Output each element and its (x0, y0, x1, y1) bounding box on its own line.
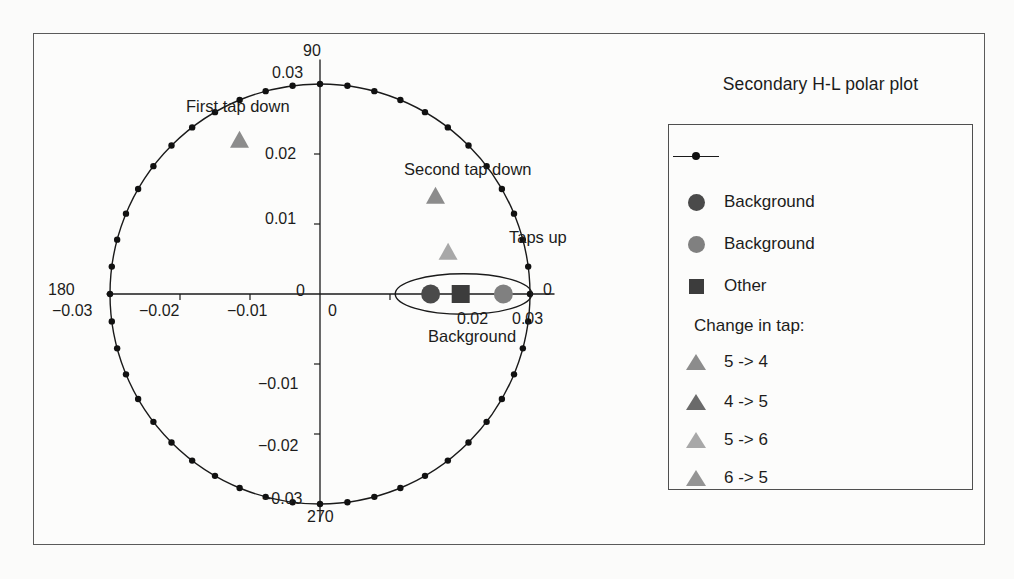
x-tick-label--0.02: −0.02 (139, 302, 179, 320)
y-tick-label--0.02: −0.02 (258, 437, 298, 455)
angle-label-180: 180 (48, 281, 75, 299)
circle-dot-marker (499, 396, 505, 402)
data-point-triangle-0 (230, 131, 249, 148)
legend-entry-label: Other (724, 276, 767, 296)
legend-tap-entry-label: 6 -> 5 (724, 468, 768, 488)
triangle-icon (668, 462, 724, 494)
legend-group-heading: Change in tap: (668, 316, 805, 336)
circle-dot-marker (262, 88, 268, 94)
circle-dot-marker (168, 142, 174, 148)
legend-entry-0[interactable] (668, 140, 973, 172)
triangle-icon (668, 424, 724, 456)
circle-dot-marker (109, 318, 115, 324)
figure-root: −0.03 −0.02 −0.01 0 0.02 0.03 0.02 0.01 … (0, 0, 1014, 579)
circle-icon (668, 228, 724, 260)
annotation-second-tap-down: Second tap down (404, 160, 532, 179)
circle-dot-marker (445, 457, 451, 463)
legend-tap-entry-0[interactable]: 5 -> 4 (668, 346, 973, 378)
legend-entry-2[interactable]: Background (668, 228, 973, 260)
angle-label-270: 270 (307, 508, 334, 526)
circle-dot-marker (135, 186, 141, 192)
triangle-swatch (686, 470, 706, 486)
circle-dot-marker (150, 419, 156, 425)
circle-dot-marker (397, 97, 403, 103)
legend-tap-entry-label: 5 -> 4 (724, 352, 768, 372)
circle-dot-marker (168, 439, 174, 445)
angle-label-0: 0 (543, 281, 552, 299)
circle-swatch (688, 194, 705, 211)
y-tick-label-0.01: 0.01 (265, 210, 296, 228)
circle-dot-marker (123, 210, 129, 216)
circle-dot-marker (189, 124, 195, 130)
circle-dot-marker (445, 124, 451, 130)
circle-dot-marker (465, 142, 471, 148)
legend-group-heading-row: Change in tap: (668, 310, 973, 342)
x-tick-label--0.01: −0.01 (227, 302, 267, 320)
circle-dot-marker (397, 485, 403, 491)
angle-label-90: 90 (303, 42, 321, 60)
circle-dot-marker (150, 163, 156, 169)
triangle-icon (668, 346, 724, 378)
y-tick-label-0: 0 (296, 282, 305, 300)
data-point-square-4 (452, 285, 470, 303)
legend-entry-label: Background (724, 192, 815, 212)
circle-dot-marker (499, 186, 505, 192)
square-swatch (689, 279, 704, 294)
circle-dot-marker (483, 419, 489, 425)
line-with-dot-icon (668, 140, 724, 172)
square-icon (668, 270, 724, 302)
data-point-circle-3 (421, 285, 440, 304)
circle-dot-marker (114, 345, 120, 351)
circle-dot-marker (344, 499, 350, 505)
circle-dot-marker (109, 263, 115, 269)
legend-rows: BackgroundBackgroundOtherChange in tap:5… (668, 124, 973, 490)
radius-label-bottom: −0.03 (262, 490, 302, 508)
legend-title: Secondary H-L polar plot (668, 74, 973, 95)
circle-dot-marker (212, 473, 218, 479)
x-tick-label--0.03: −0.03 (52, 302, 92, 320)
circle-dot-marker (422, 473, 428, 479)
data-point-circle-5 (494, 285, 513, 304)
legend-entry-1[interactable]: Background (668, 186, 973, 218)
triangle-swatch (686, 394, 706, 410)
circle-dot-marker (189, 457, 195, 463)
legend-tap-entry-2[interactable]: 5 -> 6 (668, 424, 973, 456)
circle-dot-marker (422, 109, 428, 115)
circle-dot-marker (317, 81, 323, 87)
annotation-first-tap-down: First tap down (186, 97, 290, 116)
circle-dot-marker (317, 501, 323, 507)
data-point-triangle-2 (439, 243, 458, 260)
annotation-taps-up: Taps up (509, 228, 567, 247)
circle-dot-marker (511, 210, 517, 216)
legend-tap-entry-label: 5 -> 6 (724, 430, 768, 450)
triangle-swatch (686, 354, 706, 370)
data-point-triangle-1 (426, 187, 445, 204)
circle-dot-marker (114, 236, 120, 242)
circle-dot-marker (236, 485, 242, 491)
x-tick-label-0: 0 (328, 302, 337, 320)
circle-dot-marker (107, 291, 113, 297)
legend-tap-entry-label: 4 -> 5 (724, 392, 768, 412)
legend-entry-3[interactable]: Other (668, 270, 973, 302)
circle-dot-marker (123, 371, 129, 377)
circle-dot-marker (520, 345, 526, 351)
circle-swatch (688, 236, 705, 253)
y-tick-label-0.02: 0.02 (265, 145, 296, 163)
annotation-background-cluster: Background (428, 327, 516, 346)
x-tick-label-0.03: 0.03 (512, 310, 543, 328)
x-tick-label-0.02: 0.02 (457, 310, 488, 328)
circle-dot-marker (344, 83, 350, 89)
triangle-swatch (686, 432, 706, 448)
y-tick-label--0.01: −0.01 (258, 375, 298, 393)
circle-dot-marker (371, 88, 377, 94)
circle-dot-marker (289, 83, 295, 89)
circle-icon (668, 186, 724, 218)
circle-dot-marker (525, 263, 531, 269)
circle-dot-marker (135, 396, 141, 402)
circle-dot-marker (371, 494, 377, 500)
legend-tap-entry-1[interactable]: 4 -> 5 (668, 386, 973, 418)
legend-entry-label: Background (724, 234, 815, 254)
triangle-icon (668, 386, 724, 418)
legend-tap-entry-3[interactable]: 6 -> 5 (668, 462, 973, 494)
circle-dot-marker (465, 439, 471, 445)
